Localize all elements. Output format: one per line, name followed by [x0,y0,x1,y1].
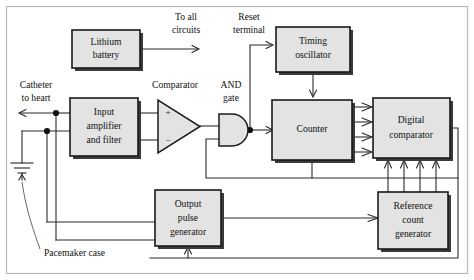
block-label-reference-count-generator-line3: generator [395,228,432,239]
and-gate-symbol [219,114,248,146]
label-to-all-circuits-line2: circuits [172,24,201,35]
block-label-lithium-battery-line1: Lithium [91,36,122,47]
block-counter[interactable]: Counter [272,100,355,163]
junction-catheter [53,110,59,116]
block-label-digital-comparator-line2: comparator [389,129,433,140]
label-and-gate-line2: gate [223,92,239,103]
block-label-input-amplifier-line1: Input [94,106,115,117]
block-label-input-amplifier-line2: amplifier [86,120,122,131]
label-comparator: Comparator [152,79,199,90]
block-label-output-pulse-generator-line3: generator [170,226,207,237]
block-label-digital-comparator-line1: Digital [398,114,425,125]
label-to-all-circuits-line1: To all [175,11,197,22]
comparator-minus-sign: − [165,135,170,145]
block-reference-count-generator[interactable]: Reference count generator [378,192,451,252]
block-label-lithium-battery-line2: battery [93,49,120,60]
block-label-reference-count-generator-line2: count [402,214,424,225]
block-timing-oscillator[interactable]: Timing oscillator [276,27,353,75]
block-label-input-amplifier-line3: and filter [87,134,123,145]
block-label-output-pulse-generator-line2: pulse [178,212,198,223]
block-output-pulse-generator[interactable]: Output pulse generator [155,190,224,249]
label-reset-terminal-line1: Reset [238,11,260,22]
junction-case [44,128,50,134]
label-pacemaker-case: Pacemaker case [44,247,105,258]
block-label-timing-oscillator-line1: Timing [299,35,327,46]
block-digital-comparator[interactable]: Digital comparator [373,98,453,161]
label-and-gate-line1: AND [221,79,242,90]
comparator-plus-sign: + [165,107,170,117]
label-reset-terminal-line2: terminal [233,24,265,35]
block-label-reference-count-generator-line1: Reference [394,200,433,211]
block-lithium-battery[interactable]: Lithium battery [72,30,143,71]
label-catheter-to-heart-line1: Catheter [20,79,53,90]
block-input-amplifier[interactable]: Input amplifier and filter [70,98,141,159]
block-label-timing-oscillator-line2: oscillator [295,49,332,60]
pacemaker-block-diagram: + − Lithium battery Timing oscillator [0,0,474,280]
diagram-canvas: + − Lithium battery Timing oscillator [0,0,474,280]
block-label-output-pulse-generator-line1: Output [175,198,202,209]
block-label-counter: Counter [297,123,329,134]
label-catheter-to-heart-line2: to heart [21,92,50,103]
